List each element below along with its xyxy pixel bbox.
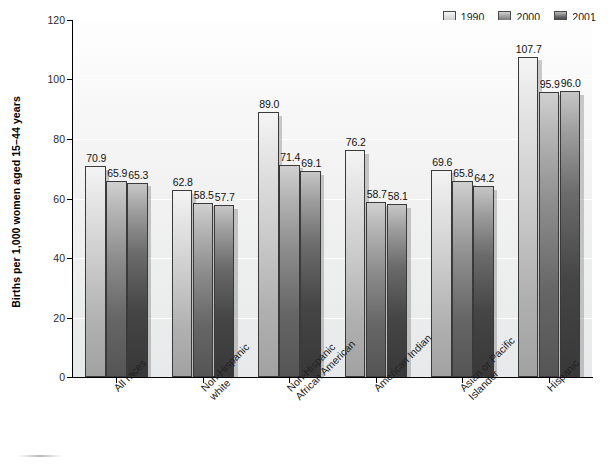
bar-value-label: 89.0: [255, 98, 284, 110]
bar-group: 107.795.996.0: [506, 20, 593, 377]
y-tick-label: 60: [25, 193, 65, 205]
bar-1990-asian-or-pacific-islander[interactable]: [431, 170, 452, 377]
bar-chart: 1990 2000 2001 Births per 1,000 women ag…: [0, 0, 612, 464]
bars-layer: 70.965.965.362.858.557.789.071.469.176.2…: [73, 20, 592, 377]
y-tick-label: 20: [25, 312, 65, 324]
y-tick-label: 100: [25, 73, 65, 85]
bar-group: 89.071.469.1: [246, 20, 333, 377]
bar-group: 62.858.557.7: [160, 20, 247, 377]
bar-2000-non-hispanic-african-american[interactable]: [279, 165, 300, 377]
bar-value-label: 57.7: [211, 191, 240, 203]
bar-2000-american-indian[interactable]: [366, 202, 387, 377]
bar-value-label: 69.1: [297, 157, 326, 169]
bar-group: 76.258.758.1: [333, 20, 420, 377]
bar-value-label: 107.7: [515, 43, 544, 55]
bar-value-label: 76.2: [342, 136, 371, 148]
bar-group: 69.665.864.2: [419, 20, 506, 377]
bar-group: 70.965.965.3: [73, 20, 160, 377]
bar-2001-non-hispanic-african-american[interactable]: [300, 171, 321, 377]
y-tick-label: 80: [25, 133, 65, 145]
bar-2001-all-races[interactable]: [127, 183, 148, 377]
bar-value-label: 62.8: [169, 176, 198, 188]
bar-2001-asian-or-pacific-islander[interactable]: [473, 186, 494, 377]
bar-value-label: 96.0: [557, 77, 586, 89]
bar-2000-non-hispanic-white[interactable]: [193, 203, 214, 377]
bar-value-label: 64.2: [470, 172, 499, 184]
y-tick-mark: [67, 377, 73, 378]
bar-2000-all-races[interactable]: [106, 181, 127, 377]
y-tick-label: 120: [25, 14, 65, 26]
y-tick-label: 40: [25, 252, 65, 264]
bar-2000-asian-or-pacific-islander[interactable]: [452, 181, 473, 377]
bar-value-label: 69.6: [428, 156, 457, 168]
x-axis-line: [72, 377, 593, 378]
bar-value-label: 70.9: [82, 152, 111, 164]
bar-1990-hispanic[interactable]: [518, 57, 539, 377]
bar-value-label: 58.1: [384, 190, 413, 202]
bar-2000-hispanic[interactable]: [539, 92, 560, 377]
bar-value-label: 65.3: [124, 169, 153, 181]
bar-1990-non-hispanic-white[interactable]: [172, 190, 193, 377]
page-artifact: [18, 455, 62, 457]
bar-2001-hispanic[interactable]: [560, 91, 581, 377]
y-tick-label: 0: [25, 371, 65, 383]
bar-1990-all-races[interactable]: [85, 166, 106, 377]
